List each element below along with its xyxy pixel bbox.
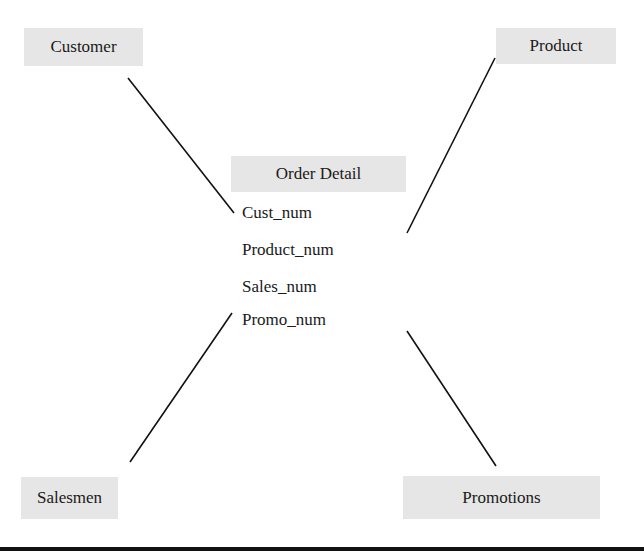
bottom-rule <box>0 547 644 551</box>
salesmen-connector <box>130 313 232 462</box>
entity-promotions-label: Promotions <box>462 488 540 508</box>
order-detail-title: Order Detail <box>276 164 361 184</box>
entity-customer: Customer <box>24 28 143 66</box>
entity-salesmen-label: Salesmen <box>37 488 102 508</box>
entity-salesmen: Salesmen <box>21 477 118 519</box>
field-product-num: Product_num <box>242 240 334 260</box>
promotions-connector <box>407 331 496 466</box>
entity-customer-label: Customer <box>50 37 116 57</box>
entity-product-label: Product <box>530 36 583 56</box>
product-connector <box>407 58 495 233</box>
entity-product: Product <box>496 28 616 64</box>
connector-lines <box>0 0 644 558</box>
field-cust-num: Cust_num <box>242 203 312 223</box>
entity-promotions: Promotions <box>403 476 600 519</box>
customer-connector <box>128 78 234 213</box>
entity-order-detail-header: Order Detail <box>231 156 406 192</box>
field-promo-num: Promo_num <box>242 310 326 330</box>
field-sales-num: Sales_num <box>242 277 317 297</box>
